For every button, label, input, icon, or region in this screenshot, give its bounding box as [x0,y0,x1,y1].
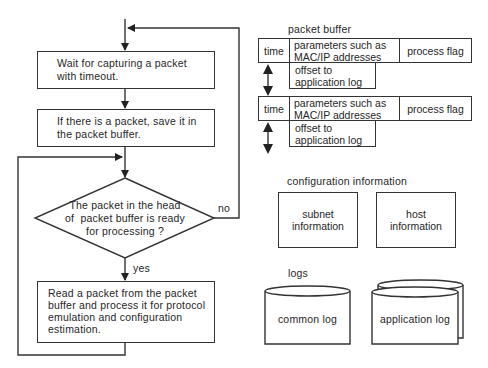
params-line-1: parameters such as [294,97,386,109]
application-log-label: application log [372,313,458,326]
step-wait-line-1: Wait for capturing a packet [57,57,187,70]
offset-line-2: application log [295,134,362,146]
step-wait-box: Wait for capturing a packet with timeout… [37,51,215,89]
params-cell: parameters such asMAC/IP addresses [289,96,400,121]
host-line-2: information [390,220,442,232]
time-cell: time [258,96,290,121]
offset-cell: offset toapplication log [289,62,376,89]
step-wait-line-2: with timeout. [57,70,119,83]
params-cell: parameters such asMAC/IP addresses [289,38,400,63]
host-line-1: host [390,208,442,220]
decision-text: The packet in the head of packet buffer … [55,199,195,238]
application-log-cylinder [372,280,463,344]
subnet-line-2: information [292,220,344,232]
subnet-line-1: subnet [292,208,344,220]
configuration-title: configuration information [287,175,407,188]
params-line-2: MAC/IP addresses [294,109,386,121]
packet-buffer-title: packet buffer [288,23,351,36]
decision-line-1: The packet in the head [55,199,195,212]
logs-title: logs [288,267,308,280]
process-flag-cell: process flag [399,38,472,63]
step-process-line-4: estimation. [48,323,101,336]
offset-cell: offset toapplication log [289,120,376,147]
process-flag-cell: process flag [399,96,472,121]
step-save-line-1: If there is a packet, save it in [57,115,196,128]
offset-line-2: application log [295,76,362,88]
step-save-line-2: the packet buffer. [57,128,141,141]
decision-line-2: of packet buffer is ready [55,212,195,225]
time-cell: time [258,38,290,63]
offset-line-1: offset to [295,122,362,134]
host-information-box: hostinformation [376,192,456,248]
no-label: no [218,202,230,215]
subnet-information-box: subnetinformation [278,192,358,248]
step-save-box: If there is a packet, save it in the pac… [37,109,215,147]
params-line-2: MAC/IP addresses [294,51,386,63]
common-log-label: common log [265,313,350,326]
yes-label: yes [133,262,150,275]
step-process-box: Read a packet from the packet buffer and… [37,281,215,343]
decision-line-3: for processing ? [55,225,195,238]
offset-line-1: offset to [295,64,362,76]
params-line-1: parameters such as [294,39,386,51]
